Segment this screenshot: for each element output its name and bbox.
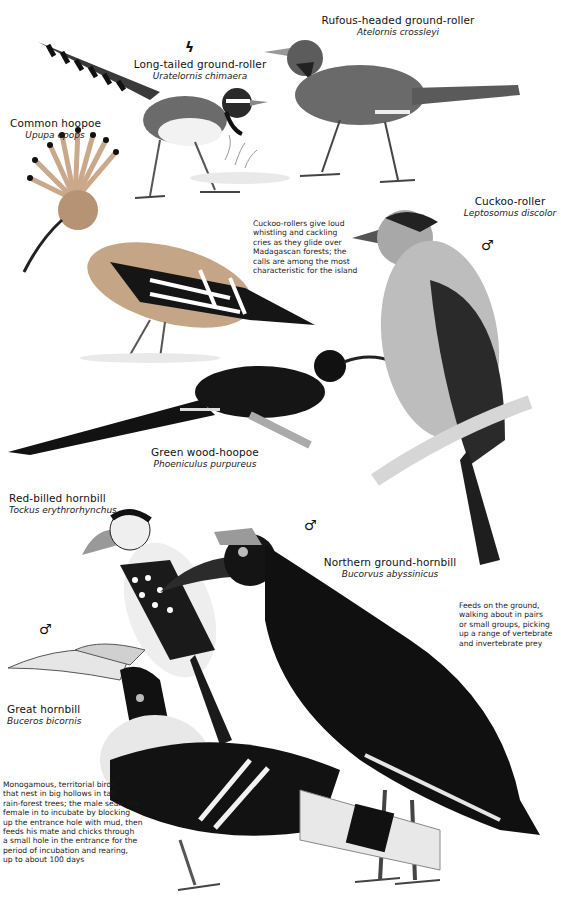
endangered-lightning-icon: ϟ [185, 40, 194, 54]
common-name: Red-billed hornbill [9, 492, 117, 504]
scientific-name: Atelornis crossleyi [318, 27, 478, 37]
species-label: Great hornbill Buceros bicornis [7, 703, 81, 726]
species-label: Green wood-hoopoe Phoeniculus purpureus [150, 446, 260, 469]
scientific-name: Tockus erythrorhynchus [9, 505, 117, 515]
common-name: Green wood-hoopoe [150, 446, 260, 458]
green-wood-hoopoe-illustration [8, 350, 394, 455]
common-name: Northern ground-hornbill [320, 556, 460, 568]
species-label: Red-billed hornbill Tockus erythrorhynch… [9, 492, 117, 515]
male-symbol-icon: ♂ [304, 518, 317, 532]
scientific-name: Uratelornis chimaera [130, 71, 270, 81]
male-symbol-icon: ♂ [481, 238, 494, 252]
species-label: Cuckoo-roller Leptosomus discolor [460, 195, 560, 218]
species-label: Northern ground-hornbill Bucorvus abyssi… [320, 556, 460, 579]
scientific-name: Upupa epops [10, 130, 100, 140]
cuckoo-roller-illustration [352, 210, 530, 565]
species-label: Long-tailed ground-roller Uratelornis ch… [130, 58, 270, 81]
ground-hornbill-note: Feeds on the ground, walking about in pa… [459, 601, 553, 648]
cuckoo-roller-note: Cuckoo-rollers give loud whistling and c… [253, 219, 357, 275]
common-name: Rufous-headed ground-roller [318, 14, 478, 26]
scientific-name: Bucorvus abyssinicus [320, 569, 460, 579]
scientific-name: Leptosomus discolor [460, 208, 560, 218]
species-label: Rufous-headed ground-roller Atelornis cr… [318, 14, 478, 37]
species-label: Common hoopoe Upupa epops [10, 117, 100, 140]
common-name: Great hornbill [7, 703, 81, 715]
great-hornbill-note: Monogamous, territorial birds that nest … [3, 780, 143, 865]
common-name: Long-tailed ground-roller [130, 58, 270, 70]
scientific-name: Buceros bicornis [7, 716, 81, 726]
rufous-headed-ground-roller-illustration [264, 40, 520, 182]
common-name: Cuckoo-roller [460, 195, 560, 207]
common-name: Common hoopoe [10, 117, 100, 129]
scientific-name: Phoeniculus purpureus [150, 459, 260, 469]
male-symbol-icon: ♂ [39, 622, 52, 636]
